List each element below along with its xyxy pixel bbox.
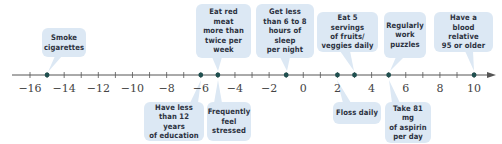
axis-tick-label: 8	[436, 82, 443, 95]
axis-tick-label: 4	[368, 82, 375, 95]
factor-blood-relative: Have a blood relative 95 or older	[434, 12, 493, 52]
factor-sleep: Get less than 6 to 8 hours of sleep per …	[256, 4, 314, 58]
axis-tick-label: 10	[467, 82, 481, 95]
data-point	[45, 73, 50, 78]
axis-tick-label: −12	[87, 82, 110, 95]
axis-tick-label: −6	[193, 82, 209, 95]
factor-fruits-veggies: Eat 5 servings of fruits/ veggies daily	[317, 12, 378, 52]
pointer-sleep	[280, 57, 290, 71]
pointer-red-meat	[212, 57, 222, 71]
axis-tick-labels: −16−14−12−10−8−6−4−20246810	[18, 82, 481, 95]
pointer-fruits	[340, 51, 354, 71]
axis-tick-label: −4	[227, 82, 243, 95]
factor-stress: Frequently feel stressed	[207, 102, 251, 141]
factor-aspirin: Take 81 mg of aspirin per day	[385, 102, 431, 143]
axis-arrow-icon	[487, 72, 496, 78]
axis-tick-label: −2	[261, 82, 277, 95]
data-point	[198, 73, 203, 78]
axis-tick-label: −8	[159, 82, 175, 95]
factor-red-meat: Eat red meat more than twice per week	[196, 4, 251, 58]
pointer-relative	[465, 51, 474, 71]
box-pointers	[48, 51, 474, 103]
factor-puzzles: Regularly work puzzles	[384, 12, 426, 58]
pointer-aspirin	[389, 80, 400, 103]
axis-tick-label: −14	[53, 82, 76, 95]
axis-tick-label: −10	[121, 82, 144, 95]
axis-tick-label: 0	[300, 82, 307, 95]
axis-tick-label: 6	[402, 82, 409, 95]
data-point	[215, 73, 220, 78]
axis-tick-label: 2	[334, 82, 341, 95]
data-point	[386, 73, 391, 78]
data-point	[335, 73, 340, 78]
factor-smoke-cigarettes: Smoke cigarettes	[42, 28, 86, 57]
pointer-smoke	[48, 56, 62, 72]
pointer-stress	[214, 80, 222, 103]
data-point	[472, 73, 477, 78]
pointer-puzzles	[390, 57, 404, 71]
data-point	[284, 73, 289, 78]
axis-tick-label: −16	[18, 82, 41, 95]
number-line-diagram: −16−14−12−10−8−6−4−20246810 Smoke cigare…	[0, 0, 502, 144]
factor-floss: Floss daily	[333, 102, 381, 124]
factor-education: Have less than 12 years of education	[144, 102, 204, 141]
data-point	[352, 73, 357, 78]
